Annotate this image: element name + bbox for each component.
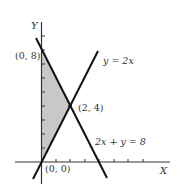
- point-label-0-8: (0, 8): [15, 50, 41, 61]
- shaded-feasible-region: [42, 50, 71, 162]
- point-label-0-0: (0, 0): [45, 163, 71, 174]
- x-axis-label: X: [159, 165, 168, 176]
- feasible-region-diagram: Y X (0, 8) (2, 4) (0, 0) y = 2x 2x + y =…: [0, 0, 187, 193]
- line-label-2x-y-8: 2x + y = 8: [94, 136, 146, 147]
- line-label-y-2x: y = 2x: [102, 55, 134, 66]
- y-axis-label: Y: [31, 20, 39, 31]
- point-label-2-4: (2, 4): [78, 102, 104, 113]
- vertex-point-2-4: [68, 104, 72, 108]
